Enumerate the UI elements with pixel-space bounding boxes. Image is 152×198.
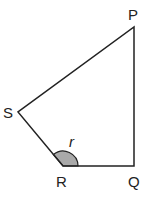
angle-label-r: r (69, 133, 75, 150)
vertex-label-q: Q (128, 173, 140, 190)
diagram-svg: P Q R S r (0, 0, 152, 198)
quadrilateral-pqrs (18, 27, 134, 166)
quadrilateral-diagram: P Q R S r (0, 0, 152, 198)
vertex-label-p: P (128, 6, 138, 23)
vertex-label-s: S (3, 104, 13, 121)
vertex-label-r: R (56, 173, 67, 190)
